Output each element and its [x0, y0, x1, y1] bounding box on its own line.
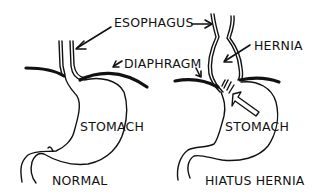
hernia-label: HERNIA [254, 38, 303, 53]
normal-caption: NORMAL [52, 173, 107, 188]
normal-panel: ESOPHAGUS DIAPHRAGM STOMACH NORMAL [21, 15, 202, 188]
hernia-caption: HIATUS HERNIA [205, 173, 305, 188]
hernia-panel: HERNIA STOMACH HIATUS HERNIA [175, 14, 305, 188]
diaphragm-arrow-icon [113, 61, 122, 67]
diaphragm-label: DIAPHRAGM [124, 56, 202, 71]
upward-hollow-arrow-icon [232, 92, 259, 116]
esophagus-label: ESOPHAGUS [114, 15, 194, 30]
hiatus-marks [222, 80, 234, 93]
normal-stomach-label: STOMACH [80, 119, 144, 134]
hernia-stomach-label: STOMACH [225, 119, 289, 134]
esophagus-arrow-icon [76, 27, 111, 49]
esophagus-arrow-right-icon [192, 20, 212, 28]
hiatus-hernia-diagram: ESOPHAGUS DIAPHRAGM STOMACH NORMAL [0, 0, 322, 195]
